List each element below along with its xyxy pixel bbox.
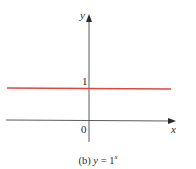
- caption-prefix: (b): [78, 155, 93, 166]
- y-tick-label-1: 1: [82, 76, 88, 87]
- figure-caption: (b) y = 1x: [0, 153, 196, 166]
- y-axis-arrow-icon: [86, 14, 92, 22]
- curve-y-equals-1-to-x: [7, 88, 171, 89]
- x-axis-label: x: [171, 124, 176, 135]
- caption-exponent: x: [114, 153, 117, 161]
- origin-label: 0: [81, 124, 87, 135]
- caption-equation: = 1: [98, 155, 114, 166]
- plot-area: [0, 0, 196, 169]
- y-axis-label: y: [80, 10, 85, 21]
